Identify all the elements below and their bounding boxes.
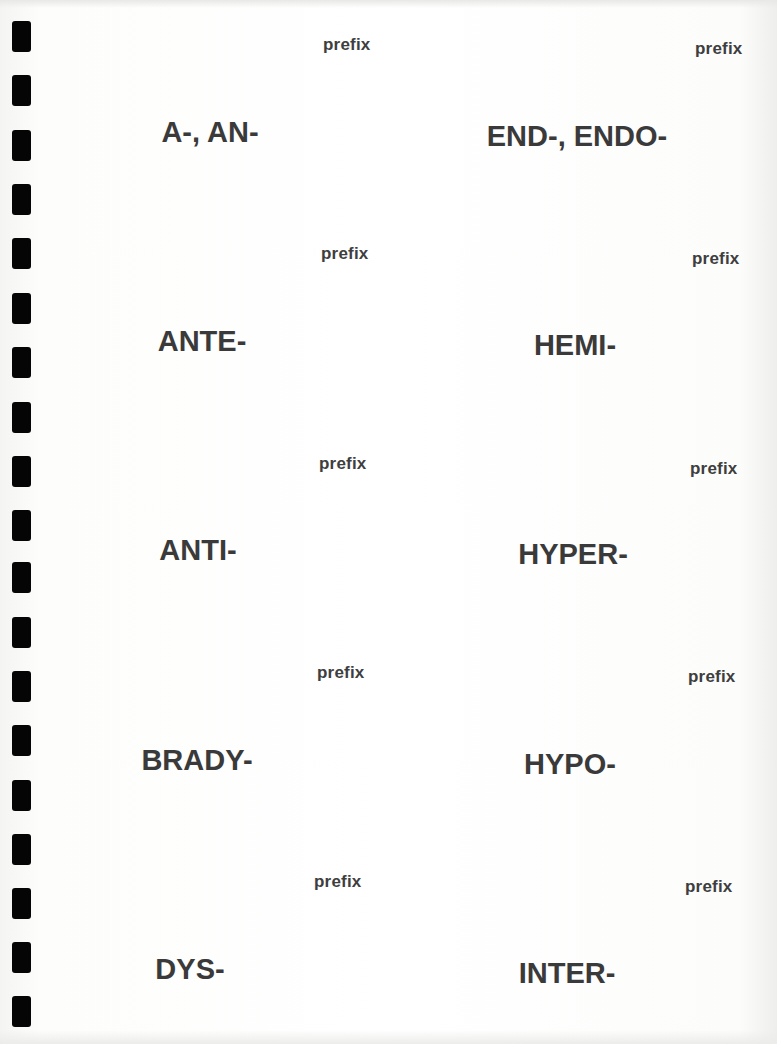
card-term: BRADY- [141, 744, 252, 777]
punch-hole [12, 888, 31, 919]
punch-hole [12, 130, 31, 161]
flashcard: prefix DYS- [40, 837, 410, 1044]
punch-hole [12, 21, 31, 52]
card-term: HEMI- [534, 329, 616, 362]
card-type-label: prefix [321, 244, 369, 264]
punch-hole [12, 402, 31, 433]
flashcard: prefix ANTE- [40, 209, 410, 418]
punch-hole [12, 562, 31, 593]
flashcard: prefix BRADY- [40, 628, 410, 837]
card-term: DYS- [155, 953, 224, 986]
punch-hole [12, 238, 31, 269]
card-type-label: prefix [695, 39, 743, 59]
punch-hole [12, 456, 31, 487]
flashcard: prefix HYPER- [405, 419, 775, 628]
card-term: ANTE- [158, 325, 247, 358]
punch-hole [12, 942, 31, 973]
flashcard: prefix A-, AN- [40, 0, 410, 209]
card-term: ANTI- [159, 534, 236, 567]
card-type-label: prefix [319, 454, 367, 474]
punch-hole [12, 780, 31, 811]
card-term: END-, ENDO- [487, 120, 667, 153]
punch-hole [12, 834, 31, 865]
card-term: HYPO- [524, 748, 616, 781]
card-type-label: prefix [690, 459, 738, 479]
card-term: HYPER- [518, 538, 628, 571]
flashcard: prefix ANTI- [40, 419, 410, 628]
punch-hole [12, 996, 31, 1027]
punch-hole [12, 293, 31, 324]
punch-hole [12, 671, 31, 702]
punch-hole [12, 725, 31, 756]
punch-hole [12, 510, 31, 541]
punch-hole [12, 184, 31, 215]
punch-hole-strip [12, 0, 32, 1044]
flashcard: prefix HYPO- [405, 628, 775, 837]
card-type-label: prefix [692, 249, 740, 269]
flashcard: prefix END-, ENDO- [405, 0, 775, 209]
card-type-label: prefix [314, 872, 362, 892]
punch-hole [12, 347, 31, 378]
card-type-label: prefix [688, 667, 736, 687]
flashcard: prefix HEMI- [405, 209, 775, 418]
punch-hole [12, 75, 31, 106]
punch-hole [12, 617, 31, 648]
card-term: A-, AN- [161, 116, 258, 149]
flashcard: prefix INTER- [405, 837, 775, 1044]
flashcard-sheet: prefix A-, AN- prefix END-, ENDO- prefix… [0, 0, 777, 1044]
card-type-label: prefix [685, 877, 733, 897]
card-term: INTER- [519, 957, 616, 990]
card-type-label: prefix [323, 35, 371, 55]
card-type-label: prefix [317, 663, 365, 683]
